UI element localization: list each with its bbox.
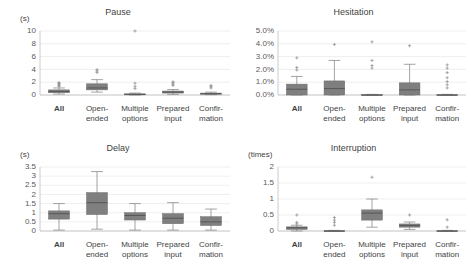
y-tick-label: 3 xyxy=(32,171,37,180)
y-tick-label: 0.0% xyxy=(256,90,274,99)
boxplot-2 xyxy=(87,68,108,92)
y-tick-label: 5.0% xyxy=(256,26,274,35)
boxplot-1 xyxy=(286,213,307,231)
x-label-prepared-input: Prepared input xyxy=(154,104,192,124)
box-rect xyxy=(399,83,420,95)
boxplot-2 xyxy=(324,43,345,95)
x-label-prepared-input: Prepared input xyxy=(154,240,192,260)
figure-grid: (s) Pause 0246810 All Open- ended Multip… xyxy=(0,0,471,272)
x-label-open-ended: Open- ended xyxy=(78,240,116,260)
x-label-confirmation: Confir- mation xyxy=(192,104,230,124)
boxplot-1 xyxy=(49,204,70,231)
x-label-all: All xyxy=(278,240,316,260)
y-tick-label: 2 xyxy=(32,77,37,86)
box-rect xyxy=(163,214,184,224)
box-rect xyxy=(49,211,70,219)
panel-title-pause: Pause xyxy=(0,7,236,17)
x-label-all: All xyxy=(278,104,316,124)
y-tick-label: 0 xyxy=(32,226,37,235)
boxplot-2 xyxy=(324,216,345,232)
y-tick-label: 8 xyxy=(32,39,37,48)
y-tick-label: 1 xyxy=(32,208,37,217)
box-rect xyxy=(362,210,383,220)
panel-pause: (s) Pause 0246810 All Open- ended Multip… xyxy=(0,0,236,136)
boxplot-2 xyxy=(87,172,108,230)
box-rect xyxy=(87,84,108,90)
x-label-multiple-options: Multiple options xyxy=(353,104,391,124)
boxplot-5 xyxy=(437,218,458,231)
panel-title-interruption: Interruption xyxy=(236,143,471,153)
y-tick-label: 2 xyxy=(270,162,275,171)
plot-area-delay: 00.511.522.533.5 xyxy=(0,160,236,238)
plot-area-pause: 0246810 xyxy=(0,24,236,102)
box-rect xyxy=(201,217,222,226)
x-label-multiple-options: Multiple options xyxy=(116,240,154,260)
y-tick-label: 1 xyxy=(270,194,275,203)
y-tick-label: 10 xyxy=(27,26,36,35)
boxplot-5 xyxy=(201,209,222,230)
y-tick-label: 0.5 xyxy=(25,217,37,226)
panel-interruption: (times) Interruption 00.511.52 All Open-… xyxy=(236,136,471,272)
box-rect xyxy=(324,81,345,95)
boxplot-1 xyxy=(286,56,307,95)
boxplot-3 xyxy=(362,40,383,95)
x-label-open-ended: Open- ended xyxy=(78,104,116,124)
x-label-prepared-input: Prepared input xyxy=(391,240,429,260)
boxplot-5 xyxy=(201,84,222,95)
x-label-open-ended: Open- ended xyxy=(316,104,354,124)
x-label-confirmation: Confir- mation xyxy=(428,104,466,124)
boxplot-3 xyxy=(125,204,146,231)
y-tick-label: 2.0% xyxy=(256,65,274,74)
y-tick-label: 2 xyxy=(32,190,37,199)
y-tick-label: 1.5 xyxy=(263,178,275,187)
y-tick-label: 3.0% xyxy=(256,52,274,61)
y-tick-label: 0 xyxy=(270,226,275,235)
y-tick-label: 0.5 xyxy=(263,210,275,219)
x-label-confirmation: Confir- mation xyxy=(192,240,230,260)
y-tick-label: 4.0% xyxy=(256,39,274,48)
x-label-all: All xyxy=(40,104,78,124)
y-tick-label: 0 xyxy=(32,90,37,99)
x-label-multiple-options: Multiple options xyxy=(116,104,154,124)
panel-delay: (s) Delay 00.511.522.533.5 All Open- end… xyxy=(0,136,236,272)
panel-hesitation: Hesitation 0.0%1.0%2.0%3.0%4.0%5.0% All … xyxy=(236,0,471,136)
boxplot-3 xyxy=(362,176,383,228)
box-rect xyxy=(125,213,146,220)
box-rect xyxy=(87,193,108,215)
x-axis-labels-interruption: All Open- ended Multiple options Prepare… xyxy=(278,240,466,260)
y-tick-label: 3.5 xyxy=(25,162,37,171)
y-tick-label: 6 xyxy=(32,52,37,61)
plot-area-interruption: 00.511.52 xyxy=(236,160,471,238)
panel-title-delay: Delay xyxy=(0,143,236,153)
x-label-multiple-options: Multiple options xyxy=(353,240,391,260)
x-axis-labels-hesitation: All Open- ended Multiple options Prepare… xyxy=(278,104,466,124)
x-axis-labels-delay: All Open- ended Multiple options Prepare… xyxy=(40,240,230,260)
boxplot-4 xyxy=(163,203,184,230)
y-tick-label: 1.0% xyxy=(256,77,274,86)
x-axis-labels-pause: All Open- ended Multiple options Prepare… xyxy=(40,104,230,124)
y-tick-label: 1.5 xyxy=(25,199,37,208)
plot-area-hesitation: 0.0%1.0%2.0%3.0%4.0%5.0% xyxy=(236,24,471,102)
x-label-open-ended: Open- ended xyxy=(316,240,354,260)
boxplot-1 xyxy=(49,81,70,94)
boxplot-3 xyxy=(125,82,146,95)
boxplot-4 xyxy=(399,213,420,229)
x-label-confirmation: Confir- mation xyxy=(428,240,466,260)
y-tick-label: 4 xyxy=(32,65,37,74)
panel-title-hesitation: Hesitation xyxy=(236,7,471,17)
x-label-prepared-input: Prepared input xyxy=(391,104,429,124)
y-tick-label: 2.5 xyxy=(25,180,37,189)
boxplot-5 xyxy=(437,63,458,95)
x-label-all: All xyxy=(40,240,78,260)
